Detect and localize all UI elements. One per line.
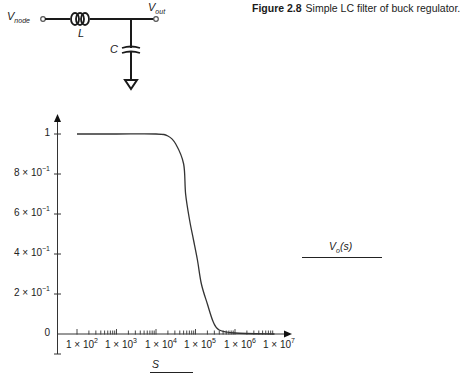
y-tick-label-0.8: 8 × 10−1 [0, 167, 50, 178]
x-label-underline [150, 372, 193, 373]
x-tick-label-1e4: 1 × 104 [141, 339, 181, 350]
y-tick-label-1: 1 [0, 127, 50, 138]
vo-label-underline [302, 257, 382, 258]
x-tick-label-1e7: 1 × 107 [259, 339, 299, 350]
x-tick-label-1e3: 1 × 103 [101, 339, 141, 350]
x-tick-label-1e2: 1 × 102 [62, 339, 102, 350]
vo-response-curve [77, 134, 275, 334]
vo-function-label: Vo(s) [329, 240, 352, 254]
x-axis-label: S [152, 358, 159, 370]
x-tick-label-1e5: 1 × 105 [180, 339, 220, 350]
y-tick-label-0.6: 6 × 10−1 [0, 207, 50, 218]
y-axis-arrow-icon [54, 114, 61, 122]
y-tick-label-0: 0 [0, 327, 50, 338]
y-tick-label-0.2: 2 × 10−1 [0, 287, 50, 298]
y-tick-label-0.4: 4 × 10−1 [0, 247, 50, 258]
x-tick-label-1e6: 1 × 106 [220, 339, 260, 350]
